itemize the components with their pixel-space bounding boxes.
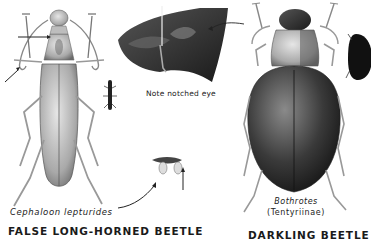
head-closeup-notched-eye <box>118 6 244 82</box>
common-name-false-long-horned: FALSE LONG-HORNED BEETLE <box>8 225 203 237</box>
darkling-beetle-figure <box>244 3 346 212</box>
subfamily-name-tentyriinae: (Tentyriinae) <box>258 208 334 217</box>
small-silhouette-darkling <box>346 34 371 80</box>
false-long-horned-beetle-figure <box>5 10 104 206</box>
common-name-darkling: DARKLING BEETLE <box>248 229 370 241</box>
small-detail-figure <box>118 157 185 208</box>
eye-note-caption: Note notched eye <box>146 89 216 98</box>
species-name-bothrotes: Bothrotes <box>266 197 326 206</box>
small-silhouette-false-long-horned <box>103 80 117 110</box>
illustration-plate: Note notched eye Cephaloon lepturides FA… <box>0 0 371 241</box>
species-name-cephaloon: Cephaloon lepturides <box>10 207 113 217</box>
